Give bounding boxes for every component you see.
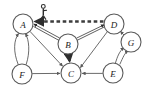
edge-line-lower — [77, 25, 104, 38]
edge-B-C — [69, 54, 70, 61]
edge-line-upper — [77, 27, 104, 40]
edge-F-A-double-curved — [15, 34, 29, 65]
graph-canvas: A B C D E F G — [0, 0, 145, 95]
node-F[interactable]: F — [12, 64, 32, 84]
edge-B-D-double — [77, 25, 105, 40]
node-label: A — [19, 20, 26, 30]
node-label: B — [65, 40, 71, 50]
node-label: F — [18, 70, 25, 80]
node-A[interactable]: A — [13, 14, 33, 34]
node-G[interactable]: G — [121, 32, 141, 52]
edge-B-A-double — [33, 24, 59, 40]
node-label: D — [110, 20, 118, 30]
node-label: G — [128, 38, 135, 48]
node-D[interactable]: D — [104, 14, 124, 34]
edge-curve-left — [115, 48, 124, 64]
node-label: C — [68, 69, 75, 79]
edge-curve-right — [25, 34, 28, 65]
edge-line — [69, 54, 70, 61]
node-label: E — [109, 69, 116, 79]
node-B[interactable]: B — [58, 34, 78, 54]
edge-curve-right — [120, 51, 128, 65]
edge-line-upper — [33, 26, 58, 40]
person-icon — [40, 5, 47, 20]
node-E[interactable]: E — [103, 63, 123, 83]
node-C[interactable]: C — [61, 63, 81, 83]
edge-curve-left — [15, 34, 19, 65]
edge-line-lower — [34, 24, 60, 38]
directed-graph-diagram: A B C D E F G — [0, 0, 145, 95]
